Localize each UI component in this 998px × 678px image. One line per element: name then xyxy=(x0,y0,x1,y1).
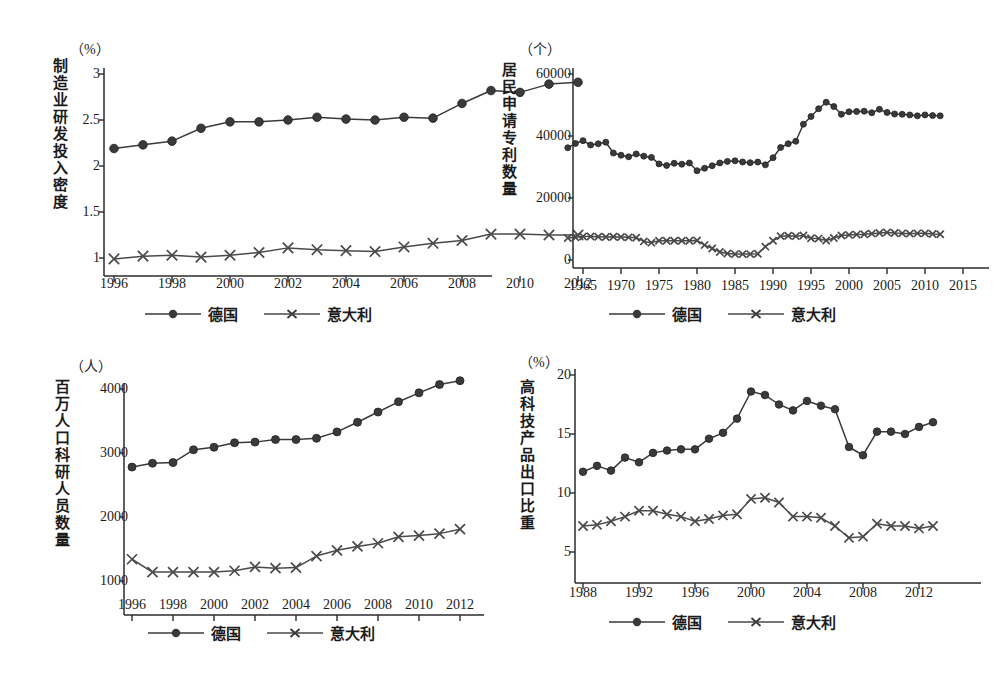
x-tick-label: 1998 xyxy=(158,276,186,292)
plot-area xyxy=(0,339,499,639)
legend-marker-x-icon xyxy=(267,627,323,639)
legend: 德国 意大利 xyxy=(609,611,836,632)
x-tick-label: 2010 xyxy=(911,278,939,294)
x-tick-label: 2002 xyxy=(241,597,269,613)
legend-marker-circle-icon xyxy=(609,616,665,628)
x-tick-label: 2000 xyxy=(216,276,244,292)
x-tick-label: 2008 xyxy=(448,276,476,292)
plot-area xyxy=(499,0,998,300)
x-tick-label: 2015 xyxy=(949,278,977,294)
x-tick-label: 2000 xyxy=(200,597,228,613)
x-tick-label: 1980 xyxy=(683,278,711,294)
x-tick-label: 2012 xyxy=(905,585,933,601)
figure-grid: （%） 制造业研发投入密度 3 2.5 2 1.5 1 1996 1998 20… xyxy=(0,0,998,678)
legend-label: 德国 xyxy=(672,303,702,324)
legend-item-germany[interactable]: 德国 xyxy=(145,303,238,324)
x-tick-label: 2008 xyxy=(364,597,392,613)
x-tick-label: 1970 xyxy=(607,278,635,294)
legend-marker-circle-icon xyxy=(609,308,665,320)
x-tick-label: 2000 xyxy=(835,278,863,294)
x-tick-label: 2000 xyxy=(737,585,765,601)
x-tick-label: 2002 xyxy=(274,276,302,292)
legend-label: 意大利 xyxy=(791,303,836,324)
legend-label: 意大利 xyxy=(327,303,372,324)
x-tick-label: 1988 xyxy=(569,585,597,601)
x-tick-label: 2005 xyxy=(873,278,901,294)
legend-marker-x-icon xyxy=(728,616,784,628)
chart-panel-hightech-export-share: （%） 高科技产品出口比重 20 15 10 5 1988 1992 1996 … xyxy=(499,339,998,678)
legend-item-italy[interactable]: 意大利 xyxy=(264,303,372,324)
x-tick-label: 2012 xyxy=(446,597,474,613)
legend-item-italy[interactable]: 意大利 xyxy=(267,622,375,643)
legend-item-germany[interactable]: 德国 xyxy=(148,622,241,643)
x-tick-label: 2008 xyxy=(849,585,877,601)
legend-marker-circle-icon xyxy=(148,627,204,639)
legend: 德国 意大利 xyxy=(145,303,372,324)
x-tick-label: 1985 xyxy=(721,278,749,294)
legend-marker-x-icon xyxy=(728,308,784,320)
x-tick-label: 2010 xyxy=(405,597,433,613)
legend-item-italy[interactable]: 意大利 xyxy=(728,611,836,632)
x-tick-label: 2004 xyxy=(332,276,360,292)
legend-label: 意大利 xyxy=(791,611,836,632)
legend: 德国 意大利 xyxy=(609,303,836,324)
chart-panel-resident-patent-applications: （个） 居民申请专利数量 60000 40000 20000 0 1965 19… xyxy=(499,0,998,339)
x-tick-label: 1996 xyxy=(100,276,128,292)
legend-marker-circle-icon xyxy=(145,308,201,320)
legend-item-germany[interactable]: 德国 xyxy=(609,611,702,632)
x-tick-label: 2006 xyxy=(323,597,351,613)
legend-item-germany[interactable]: 德国 xyxy=(609,303,702,324)
legend-label: 德国 xyxy=(672,611,702,632)
x-tick-label: 1996 xyxy=(681,585,709,601)
x-tick-label: 1996 xyxy=(118,597,146,613)
x-tick-label: 1998 xyxy=(159,597,187,613)
x-tick-label: 2006 xyxy=(390,276,418,292)
chart-panel-researchers-per-million: （人） 百万人口科研人员数量 4000 3000 2000 1000 1996 … xyxy=(0,339,499,678)
x-tick-label: 1990 xyxy=(759,278,787,294)
legend-marker-x-icon xyxy=(264,308,320,320)
x-tick-label: 1992 xyxy=(625,585,653,601)
legend: 德国 意大利 xyxy=(148,622,375,643)
x-tick-label: 1965 xyxy=(569,278,597,294)
legend-item-italy[interactable]: 意大利 xyxy=(728,303,836,324)
legend-label: 德国 xyxy=(208,303,238,324)
x-tick-label: 2004 xyxy=(793,585,821,601)
legend-label: 德国 xyxy=(211,622,241,643)
plot-area xyxy=(0,0,499,300)
chart-panel-rd-intensity: （%） 制造业研发投入密度 3 2.5 2 1.5 1 1996 1998 20… xyxy=(0,0,499,339)
x-tick-label: 1975 xyxy=(645,278,673,294)
x-tick-label: 1995 xyxy=(797,278,825,294)
x-tick-label: 2004 xyxy=(282,597,310,613)
legend-label: 意大利 xyxy=(330,622,375,643)
